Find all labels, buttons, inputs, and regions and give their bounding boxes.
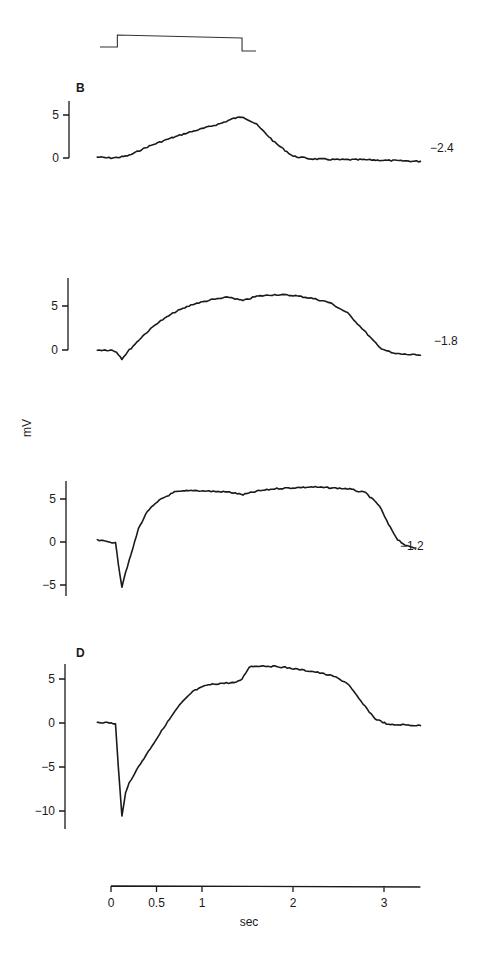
y-tick-label: 5 [48,672,55,686]
panel-letter: D [76,646,85,660]
y-tick-labels: 50 [51,299,58,357]
voltage-trace [97,487,416,588]
y-tick-label: 0 [51,343,58,357]
y-tick-label: 0 [48,716,55,730]
trace-label: −1.2 [400,539,424,553]
y-axis-title: mV [20,419,34,437]
x-tick-label: 3 [381,896,388,910]
y-tick-label: −5 [42,578,56,592]
x-axis-line [111,886,420,892]
trace-label: −2.4 [430,141,454,155]
y-tick-label: 5 [49,492,56,506]
x-tick-label: 0 [108,896,115,910]
trace-label: −1.8 [434,334,458,348]
voltage-trace [97,294,420,359]
electrophysiology-figure: mV B 50 −2.4 50 −1.8 50−5 −1.2 D 50−5−10… [0,0,504,959]
y-tick-label: −10 [35,804,56,818]
stimulus-pulse [100,35,256,51]
x-tick-label: 1 [199,896,206,910]
panel-d: D 50−5−10 [35,646,421,829]
x-tick-label: 0.5 [148,896,165,910]
x-tick-labels: 00.5123 [108,896,388,910]
y-tick-label: 5 [51,299,58,313]
panel-letter: B [76,81,85,95]
x-axis: 00.5123 sec [108,886,421,929]
y-tick-label: −5 [41,760,55,774]
y-tick-labels: 50 [52,108,59,165]
y-tick-labels: 50−5−10 [35,672,56,818]
voltage-trace [97,117,420,162]
y-axis [63,101,69,158]
panel-b: B 50 −2.4 [52,81,454,165]
panel-c-top: 50 −1.8 [51,278,458,360]
panel-c-bottom: 50−5 −1.2 [42,481,424,596]
voltage-trace [97,666,420,816]
y-tick-label: 0 [52,151,59,165]
y-axis [60,481,66,596]
y-axis [59,664,65,829]
x-axis-title: sec [240,915,259,929]
y-axis [62,278,68,350]
y-tick-labels: 50−5 [42,492,56,592]
y-tick-label: 0 [49,535,56,549]
y-tick-label: 5 [52,108,59,122]
x-tick-label: 2 [290,896,297,910]
